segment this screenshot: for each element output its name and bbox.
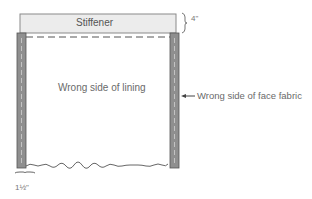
- stiffener-label: Stiffener: [76, 18, 113, 28]
- lining-wavy-edge: [26, 162, 168, 168]
- left-face-fabric-strip: [17, 33, 26, 168]
- lining-label: Wrong side of lining: [58, 83, 146, 93]
- face-fabric-arrow: [181, 94, 195, 98]
- right-face-fabric-strip: [170, 33, 179, 168]
- side-width-bracket: [15, 172, 35, 173]
- face-fabric-label: Wrong side of face fabric: [197, 91, 302, 101]
- stiffener-height-bracket: [182, 13, 187, 33]
- stiffener-height-dimension: 4": [191, 15, 198, 23]
- side-width-dimension: 1½": [15, 184, 29, 192]
